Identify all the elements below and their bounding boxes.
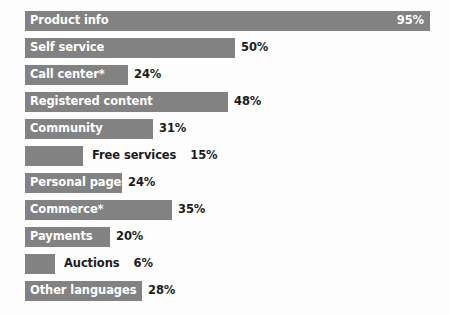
bar-row: Call center* 24% <box>25 65 161 85</box>
bar-label: Call center* <box>30 69 105 81</box>
bar-value-label: 20% <box>116 231 143 243</box>
bar-value-label: 35% <box>178 204 205 216</box>
bar-label: Community <box>30 123 103 135</box>
bar-community: Community <box>25 119 153 139</box>
bar-row: Commerce* 35% <box>25 200 205 220</box>
bar-value-label: 50% <box>241 42 268 54</box>
bar-auctions <box>25 254 55 274</box>
bar-call-center: Call center* <box>25 65 128 85</box>
bar-row: Payments 20% <box>25 227 143 247</box>
bar-registered-content: Registered content <box>25 92 228 112</box>
bar-chart: Product info 95% Self service 50% Call c… <box>0 0 449 315</box>
bar-value-label: 95% <box>397 15 430 27</box>
bar-label: Self service <box>30 42 104 54</box>
bar-label: Other languages <box>30 285 136 297</box>
bar-row: Registered content 48% <box>25 92 261 112</box>
bar-row: Personal pages 24% <box>25 173 155 193</box>
bar-label: Registered content <box>30 96 153 108</box>
bar-label: Payments <box>30 231 93 243</box>
bar-row: Auctions 6% <box>25 254 153 274</box>
bar-label: Product info <box>30 15 109 27</box>
bar-value-label: 31% <box>159 123 186 135</box>
bar-label: Personal pages <box>30 177 128 189</box>
bar-row: Other languages 28% <box>25 281 175 301</box>
bar-payments: Payments <box>25 227 110 247</box>
bar-value-label: 24% <box>134 69 161 81</box>
bar-value-label: 48% <box>234 96 261 108</box>
bar-row: Self service 50% <box>25 38 268 58</box>
bar-self-service: Self service <box>25 38 235 58</box>
bar-value-label: 28% <box>148 285 175 297</box>
bar-label: Commerce* <box>30 204 104 216</box>
bar-other-languages: Other languages <box>25 281 142 301</box>
bar-row: Free services 15% <box>25 146 218 166</box>
bar-label: Free services <box>92 150 176 162</box>
bar-free-services <box>25 146 83 166</box>
bar-commerce: Commerce* <box>25 200 172 220</box>
bar-value-label: 6% <box>133 258 152 270</box>
bar-value-label: 15% <box>190 150 217 162</box>
bar-label: Auctions <box>64 258 119 270</box>
bar-value-label: 24% <box>128 177 155 189</box>
bar-personal-pages: Personal pages <box>25 173 122 193</box>
bar-product-info: Product info 95% <box>25 11 430 31</box>
bar-row: Product info 95% <box>25 11 430 31</box>
bar-row: Community 31% <box>25 119 186 139</box>
